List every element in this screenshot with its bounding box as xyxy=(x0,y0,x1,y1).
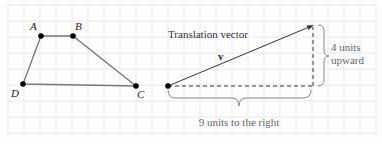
vertex-label-a: A xyxy=(29,20,37,32)
vector-label-v: v xyxy=(218,50,224,62)
vertex-point-b xyxy=(70,33,76,39)
translation-vector: Translation vector v xyxy=(165,25,314,89)
horizontal-label: 9 units to the right xyxy=(199,116,280,128)
translation-vector-title: Translation vector xyxy=(168,28,248,40)
vertex-label-b: B xyxy=(75,20,82,32)
horizontal-brace: 9 units to the right xyxy=(168,90,311,128)
vertical-label-line1: 4 units xyxy=(331,41,361,53)
vertex-label-c: C xyxy=(137,88,145,100)
vertical-label-line2: upward xyxy=(331,54,364,66)
right-curly-brace-icon xyxy=(318,25,329,86)
quadrilateral-abcd: ABCD xyxy=(10,20,145,100)
bottom-curly-brace-icon xyxy=(168,90,311,106)
vertex-point-d xyxy=(20,81,26,87)
translation-vector-diagram: ABCD Translation vector v 4 units upward… xyxy=(0,0,382,146)
vector-start-point xyxy=(165,83,171,89)
vertex-point-a xyxy=(38,33,44,39)
vertical-brace: 4 units upward xyxy=(318,25,364,86)
vertex-label-d: D xyxy=(10,87,19,99)
grid-background xyxy=(8,5,376,137)
